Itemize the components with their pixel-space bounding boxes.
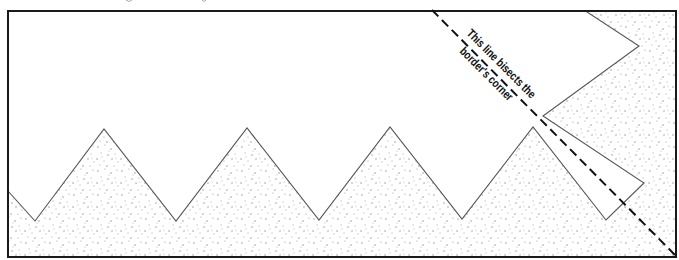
diagram-canvas: This line bisects the border's corner <box>0 0 679 260</box>
stippled-border-region <box>8 10 677 257</box>
cropped-caption-fragment <box>126 0 206 2</box>
